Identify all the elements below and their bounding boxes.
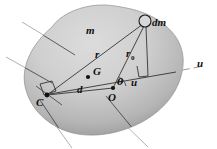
- label-radius-r0-subscript: 0: [131, 54, 135, 62]
- label-centroid-g: G: [93, 65, 101, 77]
- figure-container: m dm r r 0 G O C d θ u u: [0, 0, 217, 149]
- rigid-body-diagram: m dm r r 0 G O C d θ u u: [0, 0, 217, 149]
- point-g-dot: [86, 75, 90, 79]
- dm-marker-icon: [139, 15, 151, 27]
- label-mass-m: m: [86, 24, 95, 36]
- label-distance-d: d: [77, 83, 83, 95]
- label-dm: dm: [152, 16, 167, 28]
- label-angle-theta: θ: [117, 76, 124, 87]
- label-point-c: C: [36, 96, 44, 108]
- label-axis-u-outer: u: [197, 57, 203, 69]
- label-origin-o: O: [108, 91, 116, 103]
- label-radius-r: r: [95, 48, 100, 60]
- point-o-dot: [111, 86, 115, 90]
- point-c-dot: [45, 93, 50, 98]
- label-axis-u-inner: u: [131, 76, 137, 88]
